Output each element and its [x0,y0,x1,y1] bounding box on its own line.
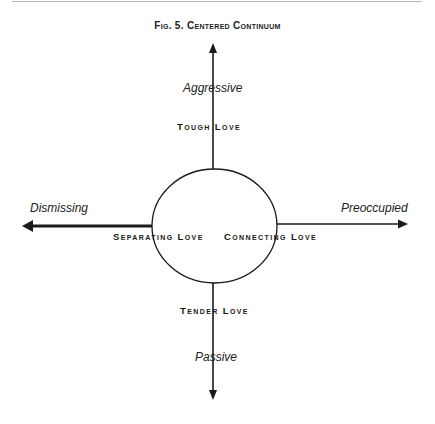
axis-label-preoccupied: Preoccupied [341,201,408,215]
arrow-up-icon [209,43,217,53]
quadrant-label-tough-love: Tough Love [177,121,241,132]
arrow-right-icon [398,220,408,229]
center-ellipse [152,169,277,283]
quadrant-label-tender-love: Tender Love [180,305,249,316]
axis-label-dismissing: Dismissing [30,201,88,215]
quadrant-label-separating-love: Separating Love [113,231,204,242]
quadrant-label-connecting-love: Connecting Love [224,231,317,242]
axis-label-passive: Passive [195,350,237,364]
axis-label-aggressive: Aggressive [183,81,242,95]
arrow-left-icon [22,220,33,232]
arrow-down-icon [209,390,217,400]
